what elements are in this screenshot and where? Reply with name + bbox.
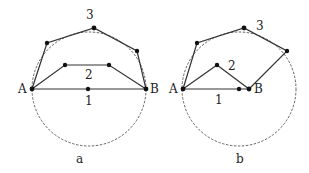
label-path-1-a: 1 — [85, 94, 93, 108]
label-B-a: B — [150, 82, 159, 96]
diagram-canvas: A B 1 2 3 a A B 1 2 3 b — [0, 0, 309, 173]
label-path-3-a: 3 — [86, 8, 94, 22]
label-path-2-a: 2 — [85, 68, 93, 82]
label-B-b: B — [254, 82, 263, 96]
caption-a: a — [76, 152, 83, 166]
label-A-b: A — [168, 82, 178, 96]
caption-b: b — [236, 152, 244, 166]
label-path-2-b: 2 — [228, 59, 236, 73]
label-path-1-b: 1 — [215, 93, 223, 107]
label-A-a: A — [17, 82, 27, 96]
path-2-b — [183, 65, 249, 89]
label-path-3-b: 3 — [256, 19, 264, 33]
figure-b: A B 1 2 3 b — [168, 19, 296, 166]
figure-a: A B 1 2 3 a — [17, 8, 159, 166]
